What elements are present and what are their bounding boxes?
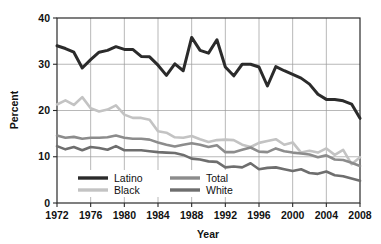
chart-legend: LatinoBlackTotalWhite [62,170,240,197]
y-tick-label: 30 [38,58,50,70]
x-tick-label: 2000 [281,209,305,221]
chart-container: 010203040 197219761980198419881992199620… [0,0,381,244]
y-tick-label: 40 [38,12,50,24]
x-tick-label: 1980 [113,209,137,221]
legend-label-black: Black [114,184,140,196]
y-axis-title: Percent [8,90,20,129]
y-axis-ticks: 010203040 [38,12,57,209]
x-tick-label: 1976 [79,209,103,221]
line-chart: 010203040 197219761980198419881992199620… [0,0,381,244]
x-tick-label: 1992 [214,209,238,221]
legend-label-white: White [206,184,233,196]
x-tick-label: 1972 [45,209,69,221]
y-tick-label: 10 [38,150,50,162]
series-line-black [57,97,360,164]
x-axis-title: Year [197,228,219,240]
x-tick-label: 2004 [315,209,339,221]
series-line-latino [57,37,360,118]
y-tick-label: 20 [38,104,50,116]
x-tick-label: 1984 [146,209,170,221]
y-tick-label: 0 [44,197,50,209]
x-axis-ticks: 1972197619801984198819921996200020042008 [45,203,372,221]
x-tick-label: 1988 [180,209,204,221]
x-tick-label: 1996 [247,209,271,221]
legend-label-latino: Latino [114,172,143,184]
x-tick-label: 2008 [348,209,372,221]
legend-label-total: Total [206,172,228,184]
series-lines [57,37,360,180]
